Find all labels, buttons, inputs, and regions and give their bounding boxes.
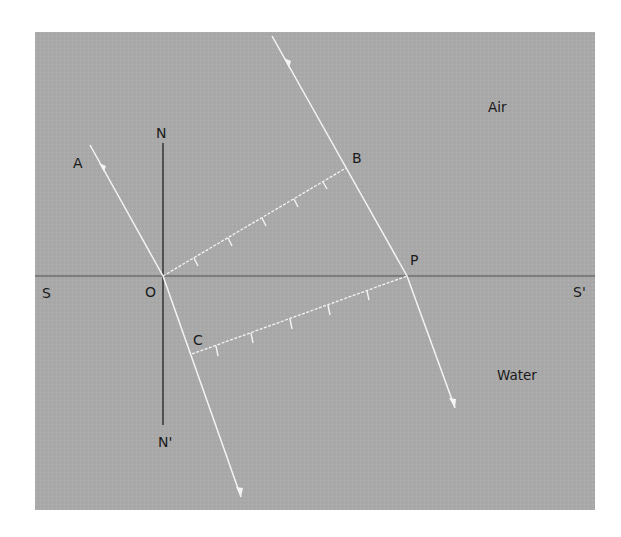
label-S-prime: S' <box>573 284 586 300</box>
label-air: Air <box>488 99 507 115</box>
label-A: A <box>73 155 83 171</box>
label-N: N <box>156 125 166 141</box>
diagram-panel <box>35 32 595 510</box>
label-S: S <box>42 285 51 301</box>
label-N-prime: N' <box>158 434 172 450</box>
label-P: P <box>410 252 418 268</box>
label-O: O <box>145 284 156 300</box>
refraction-diagram: A N B P S O S' C N' Air Water <box>0 0 621 537</box>
label-B: B <box>352 150 362 166</box>
label-water: Water <box>497 367 537 383</box>
label-C: C <box>193 332 203 348</box>
